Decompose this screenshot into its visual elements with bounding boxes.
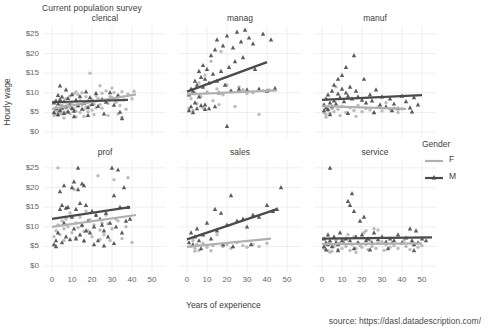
- panel-strip-sales: sales: [179, 147, 301, 157]
- x-tick-label: 10: [62, 275, 82, 284]
- y-tick-label: $10: [6, 88, 39, 97]
- chart-figure: Current population surveysource: https:/…: [0, 0, 489, 331]
- panel-plot-manag: [179, 26, 301, 138]
- legend-key-M[interactable]: [424, 172, 444, 184]
- chart-title: Current population survey: [42, 3, 142, 13]
- x-axis-title: Years of experience: [186, 300, 261, 310]
- panel-plot-prof: [44, 160, 166, 272]
- x-tick-label: 50: [412, 275, 432, 284]
- y-tick-label: $25: [6, 163, 39, 172]
- panel-strip-manag: manag: [179, 13, 301, 23]
- y-tick-label: $0: [6, 127, 39, 136]
- x-tick-label: 40: [122, 275, 142, 284]
- x-tick-label: 40: [257, 275, 277, 284]
- y-tick-label: $20: [6, 183, 39, 192]
- x-tick-label: 0: [177, 275, 197, 284]
- y-tick-label: $10: [6, 222, 39, 231]
- x-tick-label: 20: [82, 275, 102, 284]
- panel-background: [44, 26, 166, 138]
- panel-background: [179, 160, 301, 272]
- x-tick-label: 30: [237, 275, 257, 284]
- x-tick-label: 40: [392, 275, 412, 284]
- x-tick-label: 10: [332, 275, 352, 284]
- panel-plot-clerical: [44, 26, 166, 138]
- y-tick-label: $20: [6, 49, 39, 58]
- y-tick-label: $0: [6, 261, 39, 270]
- trend-line-male: [322, 237, 432, 238]
- y-tick-label: $5: [6, 241, 39, 250]
- panel-plot-service: [314, 160, 436, 272]
- panel-strip-prof: prof: [44, 147, 166, 157]
- x-tick-label: 30: [102, 275, 122, 284]
- panel-strip-manuf: manuf: [314, 13, 436, 23]
- y-tick-label: $25: [6, 29, 39, 38]
- panel-plot-sales: [179, 160, 301, 272]
- x-tick-label: 20: [352, 275, 372, 284]
- x-tick-label: 0: [42, 275, 62, 284]
- legend-title: Gender: [422, 139, 450, 149]
- legend-label-F: F: [449, 154, 454, 164]
- y-tick-label: $5: [6, 107, 39, 116]
- panel-strip-clerical: clerical: [44, 13, 166, 23]
- x-tick-label: 50: [277, 275, 297, 284]
- trend-line-female: [322, 243, 422, 244]
- x-tick-label: 50: [142, 275, 162, 284]
- panel-background: [314, 26, 436, 138]
- y-tick-label: $15: [6, 68, 39, 77]
- panel-background: [314, 160, 436, 272]
- legend-key-F[interactable]: [424, 155, 444, 167]
- legend-label-M: M: [449, 171, 456, 181]
- panel-strip-service: service: [314, 147, 436, 157]
- x-tick-label: 20: [217, 275, 237, 284]
- y-tick-label: $15: [6, 202, 39, 211]
- panel-plot-manuf: [314, 26, 436, 138]
- x-tick-label: 0: [312, 275, 332, 284]
- x-tick-label: 10: [197, 275, 217, 284]
- source-note: source: https://dasl.datadescription.com…: [329, 316, 481, 326]
- x-tick-label: 30: [372, 275, 392, 284]
